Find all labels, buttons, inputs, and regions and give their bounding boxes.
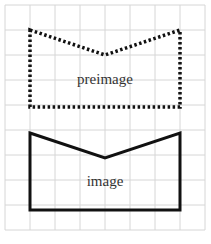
- grid: [5, 5, 205, 230]
- image-label: image: [87, 173, 124, 189]
- preimage-label: preimage: [77, 71, 133, 87]
- transformation-diagram: preimage image: [0, 0, 211, 244]
